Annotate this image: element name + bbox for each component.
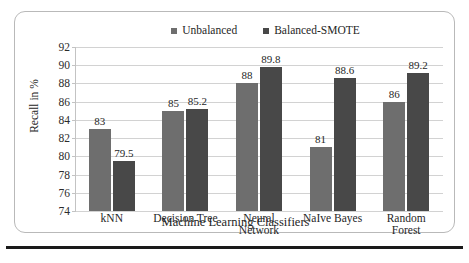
bar-balanced-smote[interactable]: 85.2 — [186, 109, 208, 211]
legend-entry-1[interactable]: Unbalanced — [171, 25, 237, 37]
y-tick-label: 82 — [59, 132, 71, 144]
y-tick-label: 88 — [59, 77, 71, 89]
y-tick-label: 86 — [59, 96, 71, 108]
page-horizontal-rule — [6, 246, 463, 249]
bar-balanced-smote[interactable]: 89.8 — [260, 67, 282, 211]
bars-layer: 8379.58585.28889.88188.68689.2 — [75, 47, 443, 211]
bar-unbalanced[interactable]: 81 — [310, 147, 332, 211]
legend-swatch-icon — [263, 28, 269, 34]
bar-unbalanced[interactable]: 85 — [162, 111, 184, 211]
x-axis-title: Machine Learning Classifiers — [15, 215, 456, 230]
y-tick-label: 78 — [59, 169, 71, 181]
bar-balanced-smote[interactable]: 79.5 — [113, 161, 135, 211]
bar-unbalanced[interactable]: 88 — [236, 83, 258, 211]
bar-value-label: 79.5 — [114, 147, 133, 159]
bar-unbalanced[interactable]: 86 — [383, 102, 405, 211]
legend-label: Balanced-SMOTE — [274, 25, 360, 37]
bar-value-label: 89.2 — [409, 59, 428, 71]
y-tick-label: 76 — [59, 187, 71, 199]
bar-value-label: 86 — [389, 88, 400, 100]
bar-balanced-smote[interactable]: 88.6 — [334, 78, 356, 211]
y-tick-label: 90 — [59, 59, 71, 71]
legend-label: Unbalanced — [182, 25, 237, 37]
figure-frame: UnbalancedBalanced-SMOTE Recall in % 929… — [14, 11, 455, 233]
y-tick-mark — [72, 211, 76, 212]
bar-value-label: 88.6 — [335, 64, 354, 76]
bar-unbalanced[interactable]: 83 — [89, 129, 111, 211]
bar-value-label: 89.8 — [261, 53, 280, 65]
legend-entry-2[interactable]: Balanced-SMOTE — [263, 25, 360, 37]
plot-wrap: 92908886848280787674 8379.58585.28889.88… — [75, 47, 443, 211]
bar-group: 8188.6 — [296, 47, 370, 211]
bar-group: 8379.5 — [75, 47, 149, 211]
legend-swatch-icon — [171, 28, 177, 34]
bar-group: 8689.2 — [369, 47, 443, 211]
bar-balanced-smote[interactable]: 89.2 — [407, 73, 429, 211]
bar-chart: UnbalancedBalanced-SMOTE Recall in % 929… — [15, 12, 456, 234]
bar-group: 8889.8 — [222, 47, 296, 211]
bar-value-label: 85 — [168, 97, 179, 109]
y-tick-label: 84 — [59, 114, 71, 126]
y-axis-title: Recall in % — [28, 51, 40, 161]
bar-value-label: 83 — [94, 115, 105, 127]
y-tick-label: 92 — [59, 41, 71, 53]
bar-value-label: 85.2 — [188, 95, 207, 107]
bar-group: 8585.2 — [149, 47, 223, 211]
bar-value-label: 81 — [315, 133, 326, 145]
y-tick-label: 80 — [59, 150, 71, 162]
chart-legend: UnbalancedBalanced-SMOTE — [15, 23, 456, 39]
bar-value-label: 88 — [241, 69, 252, 81]
